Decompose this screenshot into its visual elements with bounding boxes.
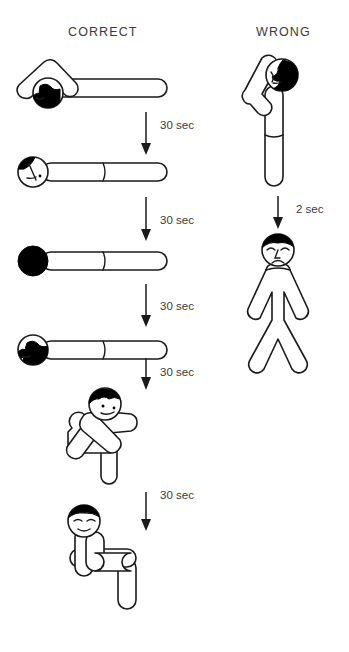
head-step-1 xyxy=(33,78,63,108)
eye-right-step-6 xyxy=(87,520,95,522)
head-step-3 xyxy=(18,246,48,276)
torso-step-6 xyxy=(75,528,93,576)
arm-bent-step-1 xyxy=(17,60,78,99)
eye-step-4 xyxy=(28,348,31,351)
eye2-step-5 xyxy=(113,407,116,410)
lower-leg-step-6 xyxy=(118,559,136,609)
mouth-step-2 xyxy=(27,177,36,178)
nose-wrong-2 xyxy=(275,250,280,258)
head-wrong-2 xyxy=(262,234,294,266)
transition-label-correct-1: 30 sec xyxy=(160,119,194,131)
waist-divider-step-3 xyxy=(103,252,105,270)
waist-divider-step-4 xyxy=(103,341,105,359)
upper-torso-step-5 xyxy=(67,412,107,459)
thigh-step-6 xyxy=(70,549,136,567)
figure-correct-step-6 xyxy=(68,505,136,609)
thigh-torso-step-5 xyxy=(68,412,115,453)
figure-correct-step-4 xyxy=(18,335,167,368)
body-capsule-step-4 xyxy=(42,341,167,359)
lower-leg-step-5 xyxy=(101,439,117,484)
arm-left-step-5 xyxy=(80,413,121,453)
eye-step-5 xyxy=(102,405,105,408)
column-heading-correct: CORRECT xyxy=(68,25,138,39)
head-detail-wrong-1 xyxy=(272,60,298,92)
waist-divider-step-2 xyxy=(103,163,105,181)
body-wrong-2 xyxy=(248,264,309,373)
eye-left-step-6 xyxy=(74,520,82,522)
head-detail-wrong-2 xyxy=(262,234,294,248)
arm-right-step-5 xyxy=(86,411,138,435)
transition-label-correct-5: 30 sec xyxy=(160,489,194,501)
transition-label-correct-3: 30 sec xyxy=(160,300,194,312)
body-capsule-wrong-1 xyxy=(265,86,283,186)
mouth-step-6 xyxy=(78,529,90,531)
column-heading-wrong: WRONG xyxy=(256,25,311,39)
transition-label-correct-2: 30 sec xyxy=(160,214,194,226)
mouth-step-4 xyxy=(22,356,30,357)
arrow-wrong-1 xyxy=(273,196,283,229)
head-step-5 xyxy=(89,388,121,420)
body-capsule-step-3 xyxy=(42,252,167,270)
head-detail-step-4 xyxy=(18,341,48,368)
body-capsule-step-2 xyxy=(42,163,167,181)
diagram-artwork xyxy=(0,0,349,652)
figure-wrong-step-1 xyxy=(242,55,298,186)
transition-label-correct-4: 30 sec xyxy=(160,366,194,378)
head-step-2 xyxy=(18,157,48,187)
forearm-step-6 xyxy=(95,553,131,571)
mouth-frown-wrong-2 xyxy=(272,261,284,264)
figure-correct-step-5 xyxy=(67,388,137,484)
waist-divider-wrong-1 xyxy=(265,135,283,137)
head-wrong-1 xyxy=(266,59,298,91)
head-step-4 xyxy=(18,335,48,365)
figure-correct-step-2 xyxy=(15,157,167,187)
upper-arm-step-6 xyxy=(86,532,104,571)
arrow-correct-5 xyxy=(141,492,151,531)
head-step-6 xyxy=(68,505,100,537)
shoulder-line-wrong-2 xyxy=(266,268,290,270)
face-line-step-2 xyxy=(29,164,36,180)
arrow-correct-1 xyxy=(141,112,151,155)
head-detail-step-1 xyxy=(33,84,60,111)
diagram-root: CORRECT WRONG 30 sec 30 sec 30 sec 30 se… xyxy=(0,0,349,652)
head-detail-step-5 xyxy=(89,389,120,404)
arm-bent-wrong-1 xyxy=(242,55,277,115)
transition-label-wrong-1: 2 sec xyxy=(296,203,324,215)
figure-correct-step-1 xyxy=(17,60,167,111)
mouth-step-1 xyxy=(36,98,44,99)
figure-wrong-step-2 xyxy=(248,234,309,373)
figure-correct-step-3 xyxy=(18,246,167,276)
eye-step-2 xyxy=(39,175,42,178)
nose-wrong-1 xyxy=(271,72,273,82)
eye-right-wrong-2 xyxy=(281,248,289,250)
head-detail-step-2 xyxy=(15,157,35,169)
mouth-wrong-1 xyxy=(273,82,281,83)
head-detail-step-6 xyxy=(68,505,100,518)
eye-left-wrong-2 xyxy=(267,248,275,250)
eye-wrong-1 xyxy=(279,69,282,72)
arrow-correct-4 xyxy=(141,358,151,390)
arrow-correct-3 xyxy=(141,284,151,327)
mouth-step-5 xyxy=(101,412,114,414)
body-capsule-step-1 xyxy=(53,79,167,97)
arrow-correct-2 xyxy=(141,197,151,241)
